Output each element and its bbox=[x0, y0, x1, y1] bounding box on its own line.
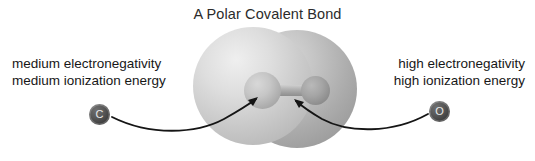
figure-title: A Polar Covalent Bond bbox=[0, 6, 535, 22]
atom-marker-carbon: C bbox=[89, 104, 110, 125]
right-label-line-2: high ionization energy bbox=[394, 72, 525, 89]
left-label-line-1: medium electronegativity bbox=[12, 55, 166, 72]
inner-atom-oxygen bbox=[301, 76, 330, 105]
polar-covalent-bond-figure: A Polar Covalent Bond bbox=[0, 0, 535, 161]
left-label-line-2: medium ionization energy bbox=[12, 72, 166, 89]
right-property-label: high electronegativity high ionization e… bbox=[394, 55, 525, 89]
left-property-label: medium electronegativity medium ionizati… bbox=[12, 55, 166, 89]
atom-marker-oxygen: O bbox=[429, 101, 450, 122]
right-label-line-1: high electronegativity bbox=[394, 55, 525, 72]
inner-atom-carbon bbox=[244, 72, 281, 109]
